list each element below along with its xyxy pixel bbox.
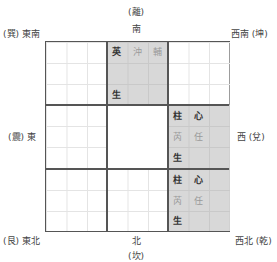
label-li-trigram: (離)	[128, 7, 144, 17]
grid-divider	[46, 168, 229, 170]
cell-northwest: 柱 心 芮 任 生	[168, 169, 230, 231]
cell-southeast	[46, 42, 107, 105]
grid-divider	[46, 104, 229, 106]
cell-char: 心	[194, 111, 203, 121]
cell-char: 任	[194, 196, 203, 206]
cell-east	[46, 105, 107, 169]
cell-southwest	[168, 42, 230, 105]
cell-char: 沖	[133, 47, 142, 57]
cell-north	[107, 169, 168, 231]
label-northwest: 西北 (乾)	[235, 236, 272, 246]
cell-center	[107, 105, 168, 169]
cell-char: 生	[112, 90, 121, 100]
label-east: (震) 東	[8, 132, 36, 142]
cell-char: 任	[194, 132, 203, 142]
nine-palace-grid: 英 沖 輔 生 柱 心 芮 任 生 柱 心 芮 任 生	[45, 41, 230, 232]
label-west: 西 (兌)	[237, 132, 265, 142]
cell-char: 英	[112, 47, 121, 57]
label-southwest: 西南 (坤)	[231, 29, 268, 39]
cell-char: 心	[194, 175, 203, 185]
label-north: 北	[132, 236, 141, 246]
label-kan-trigram: (坎)	[128, 251, 144, 261]
cell-south: 英 沖 輔 生	[107, 42, 168, 105]
cell-char: 芮	[173, 196, 182, 206]
cell-west: 柱 心 芮 任 生	[168, 105, 230, 169]
cell-char: 柱	[173, 175, 182, 185]
cell-northeast	[46, 169, 107, 231]
grid-divider	[167, 42, 169, 231]
label-northeast: (艮) 東北	[3, 236, 40, 246]
cell-char: 生	[173, 216, 182, 226]
cell-char: 生	[173, 153, 182, 163]
label-south: 南	[132, 24, 141, 34]
cell-char: 芮	[173, 132, 182, 142]
label-southeast: (巽) 東南	[3, 29, 40, 39]
grid-divider	[106, 42, 108, 231]
cell-char: 輔	[153, 47, 162, 57]
cell-char: 柱	[173, 111, 182, 121]
